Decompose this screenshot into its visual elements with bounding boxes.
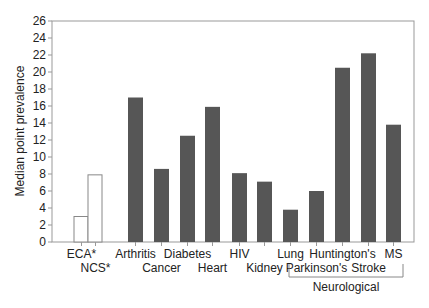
bar-hiv: [232, 173, 247, 242]
bar-kidney: [257, 182, 272, 242]
bar-parkinsons: [309, 191, 324, 242]
y-tick-label: 22: [33, 48, 47, 62]
x-tick-label: Parkinson's: [286, 261, 348, 275]
y-axis: 02468101214161820222426: [33, 14, 52, 249]
bar-huntingtons: [335, 68, 350, 242]
bar-eca: [74, 217, 88, 243]
y-tick-label: 12: [33, 133, 47, 147]
bar-arthritis: [128, 98, 143, 243]
y-tick-label: 20: [33, 65, 47, 79]
bar-ncs: [88, 175, 102, 242]
x-tick-label: Stroke: [351, 261, 386, 275]
y-tick-label: 2: [39, 218, 46, 232]
x-tick-label: ECA*: [67, 247, 97, 261]
y-tick-label: 14: [33, 116, 47, 130]
x-tick-label: Kidney: [246, 261, 283, 275]
bar-stroke: [361, 53, 376, 242]
x-tick-label: NCS*: [80, 261, 110, 275]
bar-heart: [205, 107, 220, 242]
y-axis-label: Median point prevalence: [13, 65, 27, 196]
x-tick-label: Cancer: [142, 261, 181, 275]
x-tick-label: Diabetes: [164, 247, 211, 261]
y-tick-label: 16: [33, 99, 47, 113]
x-axis-labels: ECA*NCS*ArthritisCancerDiabetesHeartHIVK…: [67, 242, 403, 275]
bar-lung: [283, 210, 298, 242]
y-tick-label: 0: [39, 235, 46, 249]
bars: [74, 53, 401, 242]
x-tick-label: HIV: [229, 247, 249, 261]
x-tick-label: Lung: [277, 247, 304, 261]
y-tick-label: 24: [33, 31, 47, 45]
bar-diabetes: [180, 136, 195, 242]
y-tick-label: 18: [33, 82, 47, 96]
group-label: Neurological: [313, 280, 380, 294]
x-tick-label: Heart: [198, 261, 228, 275]
bar-chart: 02468101214161820222426 Median point pre…: [0, 0, 429, 308]
bar-cancer: [154, 169, 169, 242]
y-tick-label: 8: [39, 167, 46, 181]
x-tick-label: Huntington's: [309, 247, 375, 261]
bar-ms: [386, 125, 401, 242]
y-tick-label: 4: [39, 201, 46, 215]
y-tick-label: 6: [39, 184, 46, 198]
x-tick-label: MS: [385, 247, 403, 261]
y-tick-label: 10: [33, 150, 47, 164]
y-tick-label: 26: [33, 14, 47, 28]
x-tick-label: Arthritis: [115, 247, 156, 261]
